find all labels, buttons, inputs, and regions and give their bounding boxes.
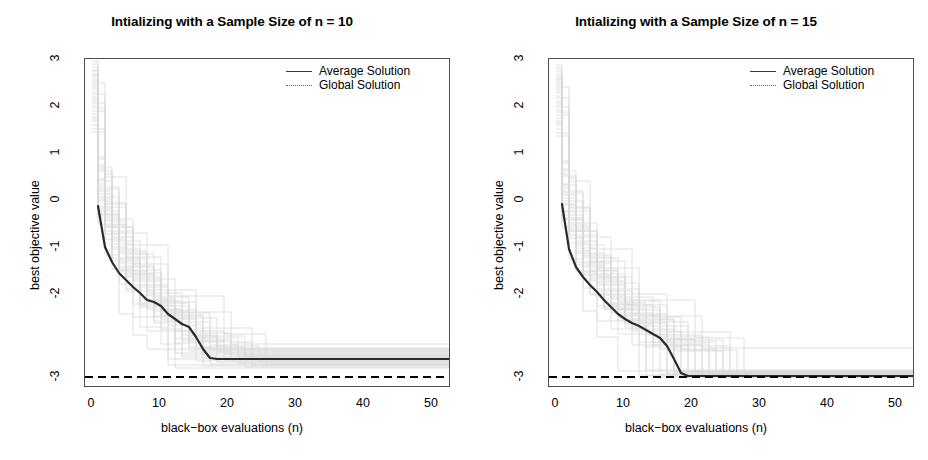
x-tick-label: 20 xyxy=(207,396,247,410)
solid-line-icon xyxy=(750,65,776,77)
x-tick-mark xyxy=(0,29,1,36)
x-tick-mark xyxy=(0,43,1,50)
plot-legend: Average Solution Global Solution xyxy=(750,64,914,92)
y-tick-mark xyxy=(0,7,7,8)
y-axis-title: best objective value xyxy=(28,180,42,290)
plot-area-n15 xyxy=(548,58,914,387)
plot-title: Intializing with a Sample Size of n = 15 xyxy=(464,14,928,29)
y-tick-mark xyxy=(464,7,471,8)
x-tick-label: 30 xyxy=(275,396,315,410)
x-tick-label: 0 xyxy=(535,396,575,410)
y-tick-label: -3 xyxy=(48,356,62,396)
x-axis-title: black−box evaluations (n) xyxy=(464,421,928,435)
plot-panel-n15: Intializing with a Sample Size of n = 15… xyxy=(464,0,928,460)
plot-panel-n10: Intializing with a Sample Size of n = 10… xyxy=(0,0,464,460)
legend-item-average-solution: Average Solution xyxy=(286,64,450,78)
dotted-line-icon xyxy=(750,79,776,91)
y-tick-label: -1 xyxy=(512,226,526,266)
x-tick-mark xyxy=(464,29,465,36)
dotted-line-icon xyxy=(286,79,312,91)
figure-panel-pair: Intializing with a Sample Size of n = 10… xyxy=(0,0,928,460)
x-tick-label: 10 xyxy=(603,396,643,410)
plot-canvas xyxy=(549,59,914,387)
plot-title: Intializing with a Sample Size of n = 10 xyxy=(0,14,464,29)
y-tick-label: 3 xyxy=(48,38,62,78)
legend-label: Global Solution xyxy=(319,78,400,92)
solid-line-icon xyxy=(286,65,312,77)
x-tick-label: 0 xyxy=(71,396,111,410)
y-tick-label: 1 xyxy=(512,132,526,172)
x-axis-title: black−box evaluations (n) xyxy=(0,421,464,435)
legend-item-global-solution: Global Solution xyxy=(750,78,914,92)
y-tick-label: -2 xyxy=(512,273,526,313)
x-tick-mark xyxy=(464,36,465,43)
plot-canvas xyxy=(85,59,450,387)
plot-area-n10 xyxy=(84,58,450,387)
y-tick-label: 1 xyxy=(48,132,62,172)
x-tick-mark xyxy=(0,36,1,43)
y-tick-label: -2 xyxy=(48,273,62,313)
y-tick-label: 0 xyxy=(512,179,526,219)
x-tick-label: 40 xyxy=(807,396,847,410)
run-traces-group xyxy=(92,61,450,368)
legend-label: Global Solution xyxy=(783,78,864,92)
average-solution-line xyxy=(98,206,450,359)
y-tick-label: 2 xyxy=(48,85,62,125)
average-solution-line xyxy=(562,204,914,376)
run-traces-group xyxy=(556,65,914,377)
y-tick-label: -1 xyxy=(48,226,62,266)
legend-item-average-solution: Average Solution xyxy=(750,64,914,78)
legend-label: Average Solution xyxy=(319,64,410,78)
legend-label: Average Solution xyxy=(783,64,874,78)
plot-legend: Average Solution Global Solution xyxy=(286,64,450,92)
legend-item-global-solution: Global Solution xyxy=(286,78,450,92)
y-tick-label: 2 xyxy=(512,85,526,125)
y-axis-title: best objective value xyxy=(492,180,506,290)
x-tick-label: 50 xyxy=(411,396,451,410)
x-tick-label: 50 xyxy=(875,396,915,410)
x-tick-mark xyxy=(464,43,465,50)
x-tick-label: 10 xyxy=(139,396,179,410)
y-tick-label: 3 xyxy=(512,38,526,78)
x-tick-label: 20 xyxy=(671,396,711,410)
y-tick-label: 0 xyxy=(48,179,62,219)
x-tick-label: 40 xyxy=(343,396,383,410)
y-tick-label: -3 xyxy=(512,356,526,396)
x-tick-label: 30 xyxy=(739,396,779,410)
